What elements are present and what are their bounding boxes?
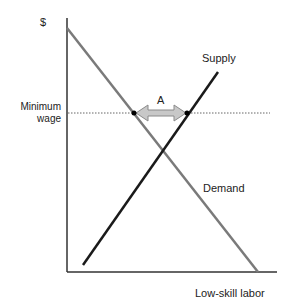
demand-point — [132, 111, 137, 116]
y-axis-label: $ — [40, 16, 46, 28]
supply-label: Supply — [202, 52, 236, 64]
gap-label: A — [157, 94, 164, 106]
demand-label: Demand — [203, 182, 245, 194]
minimum-wage-label-line1: Minimum — [6, 101, 61, 113]
minimum-wage-label-line2: wage — [6, 113, 61, 125]
x-axis-label: Low-skill labor — [195, 287, 265, 299]
supply-point — [185, 111, 190, 116]
surplus-gap-arrow — [136, 105, 186, 121]
labor-market-diagram — [0, 0, 288, 305]
minimum-wage-label: Minimum wage — [6, 101, 61, 125]
supply-curve — [83, 72, 218, 265]
